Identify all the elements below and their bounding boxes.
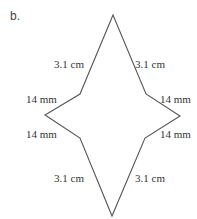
label-lower-right-side: 3.1 cm — [135, 172, 165, 184]
four-point-star-shape — [0, 0, 197, 219]
label-upper-left-side: 3.1 cm — [54, 58, 84, 70]
label-upper-right-side: 3.1 cm — [135, 58, 165, 70]
label-mid-lower-right-side: 14 mm — [160, 128, 191, 140]
label-mid-upper-right-side: 14 mm — [160, 93, 191, 105]
label-mid-upper-left-side: 14 mm — [26, 93, 57, 105]
label-lower-left-side: 3.1 cm — [54, 172, 84, 184]
label-mid-lower-left-side: 14 mm — [26, 128, 57, 140]
